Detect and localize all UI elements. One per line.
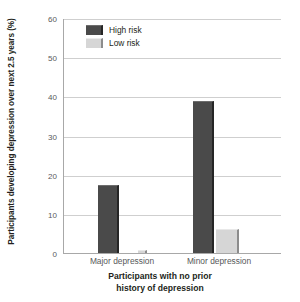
gridline-10 (64, 215, 281, 216)
legend-label-high-risk: High risk (109, 25, 142, 35)
bar-major-depression-low-risk (138, 250, 147, 253)
gridline-40 (64, 97, 281, 98)
legend-item-low-risk: Low risk (86, 38, 142, 48)
legend-swatch-high-risk-icon (86, 25, 103, 35)
y-tick-label-60: 60 (29, 15, 57, 24)
y-axis-title-container: Participants developing depression over … (0, 0, 22, 262)
y-tick-label-40: 40 (29, 93, 57, 102)
bar-minor-depression-low-risk (216, 229, 239, 253)
x-axis-title-line-1: Participants with no prior (40, 271, 280, 283)
legend-item-high-risk: High risk (86, 25, 142, 35)
y-tick-label-20: 20 (29, 171, 57, 180)
gridline-30 (64, 137, 281, 138)
gridline-50 (64, 58, 281, 59)
bar-chart-figure: Participants developing depression over … (0, 0, 300, 302)
legend-swatch-low-risk-icon (86, 38, 103, 48)
bar-major-depression-high-risk (98, 185, 119, 254)
bar-minor-depression-high-risk (193, 101, 214, 253)
y-tick-label-0: 0 (29, 250, 57, 259)
y-axis-title: Participants developing depression over … (7, 18, 16, 244)
x-axis-title-line-2: history of depression (40, 283, 280, 295)
x-tick-label-minor-depression: Minor depression (187, 256, 251, 266)
legend-label-low-risk: Low risk (109, 38, 140, 48)
gridline-60 (64, 19, 281, 20)
y-tick-label-50: 50 (29, 54, 57, 63)
y-tick-label-10: 10 (29, 210, 57, 219)
legend: High risk Low risk (86, 25, 142, 48)
x-axis-ticks: Major depression Minor depression (63, 256, 281, 270)
x-tick-label-major-depression: Major depression (90, 256, 154, 266)
plot-area: High risk Low risk (63, 19, 281, 254)
x-axis-title: Participants with no prior history of de… (40, 271, 280, 294)
y-tick-label-30: 30 (29, 132, 57, 141)
gridline-20 (64, 176, 281, 177)
